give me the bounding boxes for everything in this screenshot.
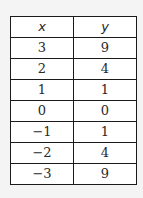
cell-x: −2 — [11, 143, 74, 164]
table-row: −2 4 — [11, 143, 137, 164]
cell-x: 2 — [11, 59, 74, 80]
table-row: 1 1 — [11, 80, 137, 101]
cell-x: −3 — [11, 164, 74, 185]
xy-table: x y 3 9 2 4 1 1 0 0 −1 1 −2 4 −3 9 — [10, 16, 137, 185]
cell-x: 0 — [11, 101, 74, 122]
header-y: y — [74, 17, 137, 38]
table-row: −3 9 — [11, 164, 137, 185]
table-row: 3 9 — [11, 38, 137, 59]
table-row: 2 4 — [11, 59, 137, 80]
table-row: −1 1 — [11, 122, 137, 143]
header-row: x y — [11, 17, 137, 38]
cell-x: −1 — [11, 122, 74, 143]
cell-y: 9 — [74, 38, 137, 59]
cell-y: 4 — [74, 59, 137, 80]
cell-y: 9 — [74, 164, 137, 185]
cell-y: 4 — [74, 143, 137, 164]
cell-y: 1 — [74, 80, 137, 101]
cell-y: 1 — [74, 122, 137, 143]
cell-x: 1 — [11, 80, 74, 101]
table-row: 0 0 — [11, 101, 137, 122]
cell-x: 3 — [11, 38, 74, 59]
cell-y: 0 — [74, 101, 137, 122]
header-x: x — [11, 17, 74, 38]
